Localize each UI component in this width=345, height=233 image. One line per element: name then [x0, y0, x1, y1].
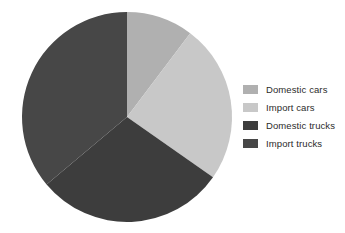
pie-slice-group — [22, 12, 232, 222]
legend-label-domestic-trucks: Domestic trucks — [266, 120, 335, 131]
legend-item-domestic-cars[interactable]: Domestic cars — [243, 80, 343, 98]
chart-legend: Domestic cars Import cars Domestic truck… — [243, 80, 343, 152]
pie-chart-figure: Domestic cars Import cars Domestic truck… — [0, 0, 345, 233]
legend-swatch-import-cars — [243, 103, 258, 112]
legend-item-import-cars[interactable]: Import cars — [243, 98, 343, 116]
legend-label-import-trucks: Import trucks — [266, 138, 322, 149]
legend-label-domestic-cars: Domestic cars — [266, 84, 327, 95]
legend-swatch-domestic-cars — [243, 85, 258, 94]
legend-swatch-import-trucks — [243, 139, 258, 148]
legend-item-import-trucks[interactable]: Import trucks — [243, 134, 343, 152]
legend-swatch-domestic-trucks — [243, 121, 258, 130]
legend-label-import-cars: Import cars — [266, 102, 315, 113]
legend-item-domestic-trucks[interactable]: Domestic trucks — [243, 116, 343, 134]
